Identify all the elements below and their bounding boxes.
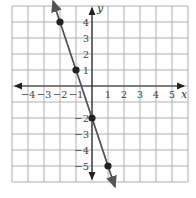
data-point	[56, 18, 63, 25]
y-tick-label: −4	[74, 145, 89, 156]
x-tick-label: 5	[169, 89, 175, 100]
x-tick-label: 1	[105, 89, 111, 100]
x-tick-label: 3	[137, 89, 143, 100]
y-tick-label: 4	[83, 17, 89, 28]
x-tick-label: 2	[121, 89, 127, 100]
y-tick-label: 1	[83, 65, 89, 76]
x-axis-label: x	[181, 88, 188, 101]
x-tick-label: 4	[153, 89, 159, 100]
y-tick-label: −2	[74, 113, 89, 124]
y-tick-label: −3	[74, 129, 89, 140]
coordinate-plane: −4−3−2−1123454321−2−3−4−5xy	[0, 0, 196, 198]
y-tick-label: −5	[74, 161, 89, 172]
y-axis-label: y	[96, 2, 104, 15]
data-point	[72, 66, 79, 73]
x-tick-label: −4	[21, 89, 36, 100]
data-point	[88, 114, 95, 121]
x-tick-label: −3	[37, 89, 52, 100]
x-tick-label: −1	[69, 89, 84, 100]
data-point	[104, 162, 111, 169]
y-tick-label: 2	[83, 49, 89, 60]
x-tick-label: −2	[53, 89, 68, 100]
y-tick-label: 3	[83, 33, 89, 44]
